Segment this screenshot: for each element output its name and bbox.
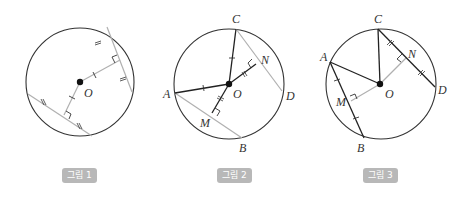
label-A: A (319, 50, 328, 64)
label-B: B (357, 141, 365, 155)
label-M: M (199, 116, 211, 130)
label-C: C (232, 12, 241, 26)
figure-2: O C A D B M N (162, 12, 295, 155)
center-point (377, 81, 383, 87)
label-O: O (385, 87, 394, 101)
figure-2-caption: 그림 2 (217, 168, 252, 183)
label-D: D (437, 83, 447, 97)
label-O: O (233, 87, 242, 101)
label-B: B (239, 141, 247, 155)
label-D: D (285, 89, 295, 103)
label-M: M (335, 95, 347, 109)
radius-OA (175, 84, 229, 93)
label-N: N (407, 47, 417, 61)
chord-CD (378, 29, 435, 87)
figure-1-caption: 그림 1 (62, 168, 97, 183)
label-C: C (374, 12, 383, 26)
segment-OM (212, 84, 229, 113)
double-tick-mark (41, 41, 126, 129)
center-point (77, 79, 83, 85)
radius-OC (378, 29, 380, 84)
figure-3: O C A D B M N (319, 12, 447, 155)
tick-mark (203, 85, 204, 91)
radius-OC (229, 29, 236, 84)
label-A: A (162, 87, 171, 101)
chord-upper (107, 27, 132, 92)
segment-OM (351, 84, 380, 101)
perpendicular-upper (80, 60, 120, 82)
right-angle-mark (397, 54, 402, 62)
right-angle-mark (66, 111, 71, 119)
center-point (226, 81, 232, 87)
tick-mark (334, 79, 340, 81)
label-N: N (260, 53, 270, 67)
figure-1: O (26, 27, 134, 136)
segment-ON (229, 64, 256, 84)
figure-3-caption: 그림 3 (363, 168, 398, 183)
right-angle-mark (215, 108, 220, 116)
segment-ON (380, 58, 406, 84)
radius-OA (330, 62, 380, 84)
perpendicular-lower (64, 82, 80, 115)
label-O: O (84, 86, 93, 100)
